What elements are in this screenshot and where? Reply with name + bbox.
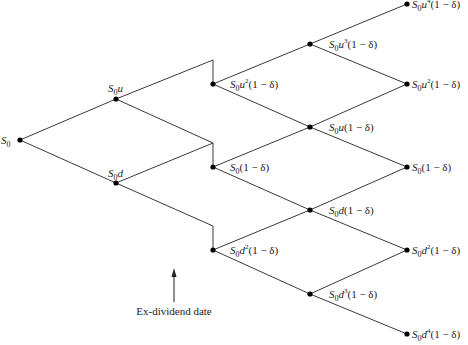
- label-n2ud: S0(1 − δ): [230, 161, 270, 176]
- label-n4u2: S0u2(1 − δ): [412, 77, 461, 93]
- label-n2dd: S0d2(1 − δ): [230, 243, 279, 259]
- edge-n1u-n2uu: [116, 60, 213, 99]
- label-n4d2: S0d2(1 − δ): [412, 243, 461, 259]
- node-n0: [17, 137, 22, 142]
- label-n4u4: S0u4(1 − δ): [412, 0, 461, 13]
- label-n3d1: S0d(1 − δ): [329, 204, 374, 219]
- label-n3u1: S0u(1 − δ): [329, 121, 374, 136]
- edge-n3d3-n4d4: [310, 294, 407, 334]
- label-n1d: S0d: [108, 167, 124, 182]
- node-n4u4: [404, 1, 409, 6]
- ex-dividend-label: Ex-dividend date: [136, 305, 212, 317]
- ex-dividend-arrow: [172, 268, 177, 302]
- label-n3d3: S0d3(1 − δ): [329, 287, 378, 303]
- edge-n2dd-n3d3: [213, 250, 310, 294]
- node-n3d1: [307, 207, 312, 212]
- node-n1u: [113, 96, 118, 101]
- edge-n1d-n2dd: [116, 183, 213, 250]
- edge-n1d-n2ud: [116, 143, 213, 183]
- node-n2dd: [210, 247, 215, 252]
- node-n2ud: [210, 164, 215, 169]
- label-n2uu: S0u2(1 − δ): [230, 77, 279, 93]
- label-n1u: S0u: [108, 82, 124, 97]
- edge-n2uu-n3u1: [213, 84, 310, 127]
- node-n3u3: [307, 41, 312, 46]
- node-n4c: [404, 164, 409, 169]
- node-n4u2: [404, 81, 409, 86]
- edge-n0-n1u: [20, 99, 116, 140]
- edge-n3d1-n4d2: [310, 210, 407, 250]
- label-n0: S0: [1, 134, 11, 149]
- edge-n0-n1d: [20, 140, 116, 183]
- node-n2uu: [210, 81, 215, 86]
- edge-n3u1-n4c: [310, 127, 407, 167]
- node-n4d4: [404, 331, 409, 336]
- edge-n1u-n2ud: [116, 99, 213, 167]
- node-n3u1: [307, 124, 312, 129]
- arrow-up-icon: [172, 268, 177, 277]
- label-n4c: S0(1 − δ): [412, 161, 452, 176]
- tree-nodes: [17, 1, 409, 336]
- tree-labels: S0 S0u S0d S0u2(1 − δ) S0(1 − δ) S0d2(1 …: [1, 0, 461, 343]
- edge-n2ud-n3d1: [213, 167, 310, 210]
- edge-n3u3-n4u2: [310, 44, 407, 84]
- node-n3d3: [307, 291, 312, 296]
- binomial-tree-diagram: S0 S0u S0d S0u2(1 − δ) S0(1 − δ) S0d2(1 …: [0, 0, 468, 345]
- node-n4d2: [404, 247, 409, 252]
- label-n3u3: S0u3(1 − δ): [329, 37, 378, 53]
- label-n4d4: S0d4(1 − δ): [412, 327, 461, 343]
